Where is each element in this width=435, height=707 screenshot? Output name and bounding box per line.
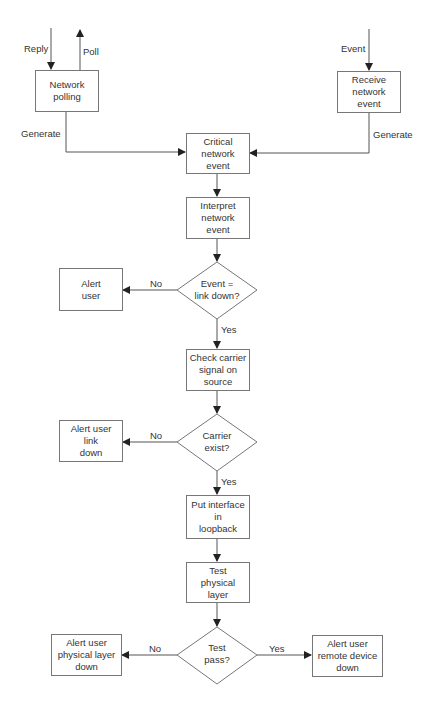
- node-alert-physical-down: Alert user physical layer down: [51, 634, 122, 676]
- generate-right-arrow: [250, 113, 369, 153]
- node-check-carrier: Check carrier signal on source: [186, 349, 250, 391]
- node-loopback: Put interface in loopback: [186, 495, 250, 539]
- edge-label-generate-right: Generate: [373, 129, 413, 141]
- edge-label-no-3: No: [149, 643, 161, 655]
- decision-link-down-label: Event = link down?: [187, 276, 247, 304]
- edge-label-no-2: No: [150, 430, 162, 442]
- edge-label-yes-2: Yes: [221, 476, 237, 488]
- node-alert-link-down: Alert user link down: [59, 420, 123, 462]
- decision-test-pass-label: Test pass?: [187, 640, 247, 668]
- node-interpret-network-event: Interpret network event: [186, 197, 250, 239]
- edge-label-yes-3: Yes: [269, 643, 285, 655]
- edge-label-no-1: No: [150, 278, 162, 290]
- edge-label-event: Event: [341, 43, 365, 55]
- node-receive-network-event: Receive network event: [337, 71, 401, 113]
- generate-left-arrow: [66, 112, 185, 152]
- edge-label-generate-left: Generate: [21, 128, 61, 140]
- edge-label-reply: Reply: [24, 43, 48, 55]
- node-test-physical-layer: Test physical layer: [186, 562, 250, 603]
- edge-label-poll: Poll: [83, 46, 99, 58]
- node-alert-user: Alert user: [59, 268, 123, 311]
- node-critical-network-event: Critical network event: [186, 133, 250, 174]
- node-network-polling: Network polling: [35, 70, 99, 112]
- edge-label-yes-1: Yes: [221, 324, 237, 336]
- node-alert-remote-down: Alert user remote device down: [312, 635, 383, 677]
- decision-carrier-label: Carrier exist?: [187, 428, 247, 456]
